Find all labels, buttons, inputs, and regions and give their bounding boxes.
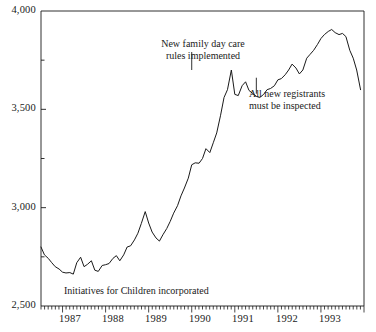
x-axis-label-1989: 1989 — [136, 313, 176, 324]
annotation-registrants-inspected: All new registrants must be inspected — [249, 88, 369, 111]
x-axis-label-1993: 1993 — [310, 313, 350, 324]
annotation-registrants-line-2: must be inspected — [249, 100, 369, 112]
annotation-initiatives-line-1: Initiatives for Children incorporated — [64, 285, 209, 297]
x-axis-label-1991: 1991 — [223, 313, 263, 324]
annotation-rules-implemented: New family day care rules implemented — [142, 38, 264, 61]
y-axis-label-4000: 4,000 — [0, 4, 36, 15]
chart-figure: 4,000 3,500 3,000 2,500 1987 1988 1989 1… — [0, 0, 376, 332]
x-axis-label-1990: 1990 — [180, 313, 220, 324]
x-axis-label-1988: 1988 — [93, 313, 133, 324]
annotation-rules-line-2: rules implemented — [142, 50, 264, 62]
y-axis-label-2500: 2,500 — [0, 299, 36, 310]
data-series-line — [41, 29, 361, 274]
x-axis-label-1987: 1987 — [50, 313, 90, 324]
annotation-registrants-line-1: All new registrants — [249, 88, 369, 100]
x-axis-label-1992: 1992 — [267, 313, 307, 324]
y-axis-label-3000: 3,000 — [0, 201, 36, 212]
annotation-rules-line-1: New family day care — [142, 38, 264, 50]
annotation-initiatives-incorporated: Initiatives for Children incorporated — [64, 285, 209, 297]
y-axis-label-3500: 3,500 — [0, 102, 36, 113]
